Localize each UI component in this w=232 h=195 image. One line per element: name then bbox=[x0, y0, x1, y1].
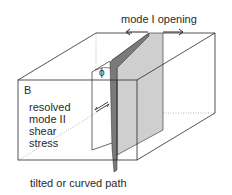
block-label: B bbox=[24, 84, 31, 96]
shear-label-line: shear bbox=[29, 125, 71, 137]
block-diagram bbox=[0, 0, 232, 195]
shear-label-line: resolved bbox=[29, 101, 71, 113]
shear-arrows bbox=[95, 102, 109, 112]
shear-stress-label: resolved mode II shear stress bbox=[29, 101, 71, 149]
shear-label-line: stress bbox=[29, 137, 71, 149]
phi-label: ϕ bbox=[99, 67, 105, 79]
shear-label-line: mode II bbox=[29, 113, 71, 125]
fracture-plane bbox=[112, 33, 163, 155]
mode-i-opening-label: mode I opening bbox=[121, 13, 197, 25]
path-label: tilted or curved path bbox=[30, 177, 127, 189]
